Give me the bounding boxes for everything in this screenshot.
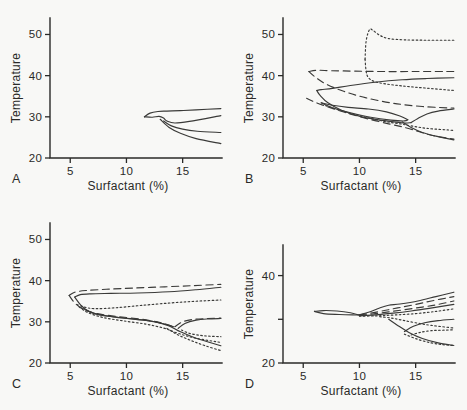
- y-tick-label-c-40: 40: [29, 275, 42, 287]
- curve-b-solid-lowest: [402, 122, 454, 140]
- x-axis-title-c: Surfactant (%): [88, 384, 169, 398]
- y-axis-title-d: Temperature: [242, 269, 256, 340]
- y-tick-label-c-20: 20: [29, 357, 42, 369]
- y-tick-label-b-20: 20: [262, 152, 275, 164]
- panel-letter-b: B: [245, 172, 253, 186]
- curve-b-dashed-upper-loop-top: [309, 70, 454, 71]
- y-tick-label-a-40: 40: [29, 70, 42, 82]
- curve-b-dotted-descending: [365, 59, 454, 90]
- chart-panel-c: 2030405051015Surfactant (%)TemperatureC: [0, 205, 233, 410]
- chart-panel-d: 204051015Surfactant (%)TemperatureD: [233, 205, 467, 410]
- curve-c-solid-center-descending: [81, 308, 220, 346]
- curve-d-dashed-rising-upper: [359, 297, 453, 315]
- chart-panel-b: 2030405051015Surfactant (%)TemperatureB: [233, 0, 467, 205]
- x-tick-label-d-5: 5: [300, 370, 307, 382]
- curve-c-dotted-outer-band: [77, 300, 221, 309]
- curve-d-dotted-descending-branch: [380, 317, 454, 328]
- x-axis-title-b: Surfactant (%): [321, 179, 402, 193]
- y-tick-label-a-30: 30: [29, 111, 42, 123]
- curve-c-solid-inner-loop-top: [75, 287, 221, 297]
- y-tick-label-d-40: 40: [262, 270, 275, 282]
- axis-lines-d: [283, 245, 455, 363]
- y-tick-label-a-50: 50: [29, 28, 42, 40]
- curve-b-dotted-peak-loop: [365, 29, 454, 59]
- panel-letter-c: C: [12, 377, 21, 391]
- y-tick-label-b-40: 40: [262, 70, 275, 82]
- x-tick-label-c-15: 15: [176, 370, 189, 382]
- y-tick-label-d-20: 20: [262, 357, 275, 369]
- x-tick-label-b-10: 10: [353, 165, 366, 177]
- curve-b-dotted-lower-band: [326, 106, 454, 131]
- panel-letter-d: D: [245, 377, 254, 391]
- x-tick-label-c-5: 5: [67, 370, 74, 382]
- curve-a-middle-boundary-solid: [144, 116, 220, 123]
- y-tick-label-a-20: 20: [29, 152, 42, 164]
- curve-c-dotted-lower-descending: [79, 307, 221, 342]
- x-tick-label-a-10: 10: [120, 165, 133, 177]
- axis-lines-a: [50, 18, 222, 158]
- x-axis-title-d: Surfactant (%): [321, 384, 402, 398]
- panel-letter-a: A: [12, 172, 21, 186]
- y-tick-label-b-30: 30: [262, 111, 275, 123]
- x-tick-label-b-15: 15: [409, 165, 422, 177]
- x-tick-label-a-5: 5: [67, 165, 74, 177]
- chart-panel-a: 2030405051015Surfactant (%)TemperatureA: [0, 0, 233, 205]
- y-tick-label-c-50: 50: [29, 233, 42, 245]
- curve-d-dotted-right-hook: [411, 330, 454, 335]
- curve-c-solid-right-hook-upper: [178, 319, 221, 329]
- curve-b-dashed-upper-loop-bottom: [309, 72, 454, 109]
- x-tick-label-c-10: 10: [120, 370, 133, 382]
- x-tick-label-a-15: 15: [176, 165, 189, 177]
- y-axis-title-c: Temperature: [9, 258, 23, 329]
- curve-a-lowest-boundary-solid: [160, 119, 221, 143]
- y-axis-title-b: Temperature: [242, 53, 256, 124]
- y-axis-title-a: Temperature: [9, 53, 23, 124]
- y-tick-label-b-50: 50: [262, 28, 275, 40]
- x-tick-label-d-10: 10: [353, 370, 366, 382]
- curve-b-solid-right-hook: [411, 109, 454, 123]
- x-axis-title-a: Surfactant (%): [88, 179, 169, 193]
- y-tick-label-c-30: 30: [29, 316, 42, 328]
- curve-a-upper-boundary-solid: [144, 109, 220, 117]
- x-tick-label-b-5: 5: [300, 165, 307, 177]
- x-tick-label-d-15: 15: [409, 370, 422, 382]
- figure-panel-grid: 2030405051015Surfactant (%)TemperatureA2…: [0, 0, 467, 410]
